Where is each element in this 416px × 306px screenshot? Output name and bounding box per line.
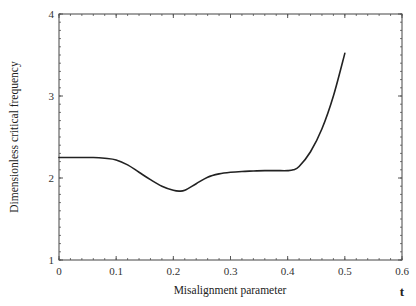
y-tick-labels: 1234	[49, 8, 55, 266]
y-tick-label: 1	[49, 254, 55, 266]
major-ticks	[59, 14, 402, 260]
x-tick-label: 0.6	[395, 265, 409, 277]
x-tick-label: 0	[56, 265, 62, 277]
x-axis-title: Misalignment parameter	[174, 284, 287, 297]
x-tick-label: 0.1	[109, 265, 123, 277]
y-tick-label: 4	[49, 8, 55, 20]
x-axis-symbol: t	[400, 284, 405, 299]
plot-frame	[59, 14, 402, 260]
x-tick-label: 0.3	[224, 265, 238, 277]
y-tick-label: 3	[49, 90, 55, 102]
x-tick-labels: 00.10.20.30.40.50.6	[56, 265, 409, 277]
y-axis-title: Dimensionless critical frequency	[8, 61, 21, 213]
data-curve	[59, 53, 345, 191]
x-tick-label: 0.5	[338, 265, 352, 277]
chart: 00.10.20.30.40.50.6 1234 Misalignment pa…	[0, 0, 416, 306]
x-tick-label: 0.2	[166, 265, 180, 277]
minor-ticks	[59, 14, 402, 260]
y-tick-label: 2	[49, 172, 55, 184]
x-tick-label: 0.4	[281, 265, 295, 277]
